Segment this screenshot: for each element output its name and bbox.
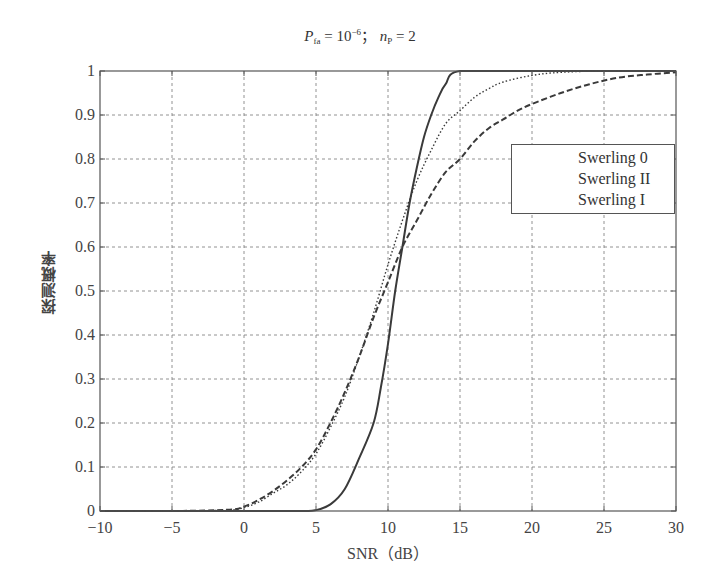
x-tick-label: 10	[380, 519, 396, 536]
x-tick-label: 25	[596, 519, 612, 536]
y-axis-label: 探测概率	[38, 250, 58, 314]
y-tick-label: 0.1	[75, 458, 95, 475]
x-axis-label: SNR（dB）	[0, 540, 720, 564]
legend-label: Swerling II	[578, 170, 650, 188]
legend: Swerling 0 Swerling II Swerling I	[511, 144, 675, 214]
x-tick-label: 30	[668, 519, 684, 536]
x-tick-label: 5	[312, 519, 320, 536]
y-tick-label: 0.8	[75, 150, 95, 167]
x-tick-label: −5	[163, 519, 180, 536]
y-tick-label: 0.6	[75, 238, 95, 255]
y-tick-label: 0.2	[75, 414, 95, 431]
title-exp: −6	[351, 27, 361, 37]
plot-canvas: −10−505101520253000.10.20.30.40.50.60.70…	[0, 0, 720, 579]
x-tick-label: 15	[452, 519, 468, 536]
y-tick-label: 0	[87, 502, 95, 519]
y-tick-label: 0.9	[75, 106, 95, 123]
legend-label: Swerling I	[578, 191, 645, 209]
legend-label: Swerling 0	[578, 149, 648, 167]
legend-item-swerling-0: Swerling 0	[518, 148, 674, 168]
tick-labels: −10−505101520253000.10.20.30.40.50.60.70…	[75, 62, 684, 536]
y-tick-label: 0.5	[75, 282, 95, 299]
x-tick-label: 0	[240, 519, 248, 536]
y-tick-label: 0.3	[75, 370, 95, 387]
y-tick-label: 0.7	[75, 194, 95, 211]
y-tick-label: 0.4	[75, 326, 95, 343]
y-tick-label: 1	[87, 62, 95, 79]
legend-item-swerling-i: Swerling I	[518, 190, 674, 210]
title-eq1: = 10	[320, 28, 351, 44]
grid-lines	[100, 71, 676, 511]
x-tick-label: −10	[87, 519, 112, 536]
legend-item-swerling-ii: Swerling II	[518, 169, 674, 189]
title-sep: ；	[361, 28, 380, 44]
chart-title: Pfa = 10−6； nP = 2	[0, 24, 720, 46]
title-eq2: = 2	[392, 28, 415, 44]
x-tick-label: 20	[524, 519, 540, 536]
